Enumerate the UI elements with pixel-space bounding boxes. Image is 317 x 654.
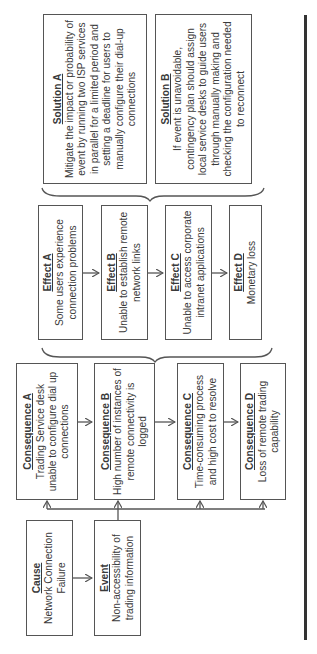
cause-title: Cause — [31, 563, 43, 594]
consequence-d-box: Consequence D Loss of remote trading cap… — [240, 363, 286, 500]
solution-a-box: Solution A Mitigate the impact or probab… — [43, 14, 147, 184]
effect-title: Effect C — [170, 253, 182, 292]
solution-title: Solution B — [160, 74, 172, 125]
effect-title: Effect A — [42, 253, 54, 291]
consequence-text: Loss of remote trading capability — [257, 368, 282, 495]
effect-title: Effect D — [233, 253, 245, 292]
solution-title: Solution A — [52, 74, 64, 125]
risk-analysis-diagram: Cause Network Connection Failure Event N… — [0, 0, 317, 654]
effect-a-box: Effect A Some users experience connectio… — [38, 205, 83, 340]
consequence-title: Consequence D — [244, 393, 256, 470]
page-rule-divider — [304, 15, 307, 640]
consequence-a-box: Consequence A Trading Service desk unabl… — [16, 363, 78, 500]
solution-text: Mitigate the impact or probability of ev… — [64, 19, 138, 179]
effect-b-box: Effect B Unable to establish remote netw… — [101, 205, 148, 340]
solution-b-box: Solution B If event is unavoidable, cont… — [155, 14, 252, 184]
consequence-text: Time-consuming process and high cost to … — [194, 368, 219, 495]
brace-effects-solutions — [42, 188, 264, 201]
effect-text: Monetary loss — [246, 241, 258, 304]
effect-text: Unable to establish remote network links — [118, 210, 143, 335]
consequence-b-box: Consequence B High number of instances o… — [94, 363, 155, 500]
effect-c-box: Effect C Unable to access corporate intr… — [165, 205, 212, 340]
consequence-title: Consequence A — [22, 393, 34, 470]
cause-text: Network Connection Failure — [43, 525, 68, 631]
effect-title: Effect B — [106, 253, 118, 292]
effect-text: Unable to access corporate intranet appl… — [182, 210, 207, 335]
event-title: Event — [99, 564, 111, 592]
effect-text: Some users experience connection problem… — [54, 210, 79, 335]
event-box: Event Non-accessibility of trading infor… — [94, 520, 141, 636]
consequence-title: Consequence B — [100, 393, 112, 470]
event-text: Non-accessibility of trading information — [111, 525, 136, 631]
consequence-text: High number of instances of remote conne… — [112, 368, 149, 495]
brace-consequences-effects — [42, 348, 272, 362]
consequence-c-box: Consequence C Time-consuming process and… — [177, 363, 224, 500]
cause-box: Cause Network Connection Failure — [26, 520, 73, 636]
effect-d-box: Effect D Monetary loss — [229, 205, 262, 340]
solution-text: If event is unavoidable, contingency pla… — [172, 19, 246, 179]
consequence-title: Consequence C — [182, 393, 194, 470]
consequence-text: Trading Service desk unable to configure… — [35, 368, 72, 495]
